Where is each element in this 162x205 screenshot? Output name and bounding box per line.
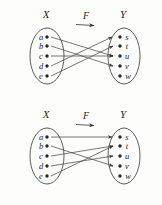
edge-e-t-bottom — [51, 146, 113, 176]
figure-page: X Y F a — [0, 0, 162, 205]
node-dot-c-top — [45, 54, 48, 57]
node-dot-d-bottom — [45, 164, 48, 167]
codomain-set-label-top: Y — [120, 8, 128, 20]
domain-set-label-top: X — [42, 8, 51, 20]
edge-c-t-bottom — [51, 146, 113, 156]
node-dot-a-bottom — [45, 135, 48, 138]
codomain-element-label-w-bottom: w — [125, 171, 131, 181]
codomain-element-label-u-bottom: u — [125, 151, 129, 161]
codomain-element-label-v-top: v — [125, 61, 129, 71]
function-arrow-top — [76, 25, 94, 26]
function-label-bottom: F — [82, 110, 90, 121]
edge-e-t-top — [51, 46, 113, 76]
edge-b-v-bottom — [51, 146, 113, 166]
mapping-edges-top — [51, 37, 113, 76]
node-dot-w-top — [118, 74, 121, 77]
node-dot-v-bottom — [118, 164, 121, 167]
codomain-element-label-u-top: u — [125, 51, 129, 61]
function-label-top: F — [82, 10, 90, 21]
node-dot-v-top — [118, 64, 121, 67]
arrow-diagram-bottom: X Y F a b c — [0, 100, 162, 203]
domain-nodes-bottom: a b c d e — [39, 132, 49, 181]
node-dot-u-top — [118, 54, 121, 57]
node-dot-c-bottom — [45, 154, 48, 157]
node-dot-u-bottom — [118, 154, 121, 157]
function-arrow-bottom — [76, 125, 94, 126]
node-dot-d-top — [45, 64, 48, 67]
domain-element-label-e-top: e — [39, 71, 43, 81]
domain-nodes-top: a b c d e — [39, 32, 49, 81]
domain-element-label-e-bottom: e — [39, 171, 43, 181]
node-dot-s-bottom — [118, 135, 121, 138]
codomain-element-label-v-bottom: v — [125, 161, 129, 171]
codomain-nodes-bottom: s t u v w — [118, 132, 131, 181]
node-dot-t-bottom — [118, 144, 121, 147]
codomain-element-label-t-bottom: t — [126, 141, 129, 151]
codomain-nodes-top: s t u v w — [118, 32, 131, 81]
domain-element-label-b-bottom: b — [39, 141, 43, 151]
node-dot-e-top — [45, 74, 48, 77]
codomain-element-label-t-top: t — [126, 41, 129, 51]
node-dot-w-bottom — [118, 174, 121, 177]
node-dot-a-top — [45, 35, 48, 38]
node-dot-b-top — [45, 44, 48, 47]
domain-element-label-d-bottom: d — [39, 161, 44, 171]
codomain-set-label-bottom: Y — [120, 108, 128, 120]
node-dot-e-bottom — [45, 174, 48, 177]
arrow-diagram-top: X Y F a — [0, 0, 162, 103]
domain-element-label-b-top: b — [39, 41, 43, 51]
domain-element-label-d-top: d — [39, 61, 44, 71]
node-dot-t-top — [118, 44, 121, 47]
domain-element-label-c-bottom: c — [39, 151, 43, 161]
edge-a-u-top — [51, 37, 113, 56]
mapping-edges-bottom — [51, 137, 113, 176]
node-dot-b-bottom — [45, 144, 48, 147]
codomain-element-label-w-top: w — [125, 71, 131, 81]
domain-element-label-c-top: c — [39, 51, 43, 61]
node-dot-s-top — [118, 35, 121, 38]
domain-set-label-bottom: X — [42, 108, 51, 120]
